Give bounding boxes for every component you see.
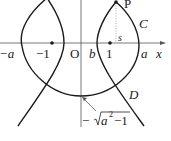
- label-intercept-prefix: −: [82, 114, 89, 127]
- label-b: b: [89, 47, 96, 60]
- label-s: s: [118, 33, 122, 43]
- label-p: P: [124, 0, 131, 10]
- label-neg-one: −1: [36, 47, 50, 60]
- intercept-arrow-icon: [82, 97, 87, 101]
- point-p: [114, 0, 118, 4]
- point-one: [108, 41, 112, 45]
- label-intercept-exp: 2: [109, 111, 113, 119]
- label-one: 1: [106, 47, 113, 60]
- label-x-axis: x: [156, 47, 162, 60]
- label-a: a: [141, 47, 148, 60]
- diagram: P C D s −a −1 O b 1 a x − a 2 −1: [0, 0, 171, 141]
- label-intercept-radicand: a: [101, 114, 108, 127]
- label-origin: O: [70, 47, 79, 60]
- x-axis-arrow-icon: [160, 41, 166, 45]
- point-neg-one: [50, 41, 54, 45]
- curve-d-right-branch: [97, 2, 144, 126]
- label-d: D: [129, 88, 138, 101]
- label-c: C: [139, 17, 148, 30]
- curve-d-left-branch: [18, 0, 64, 126]
- label-neg-a: −a: [0, 47, 14, 60]
- label-intercept-suffix: −1: [114, 114, 128, 127]
